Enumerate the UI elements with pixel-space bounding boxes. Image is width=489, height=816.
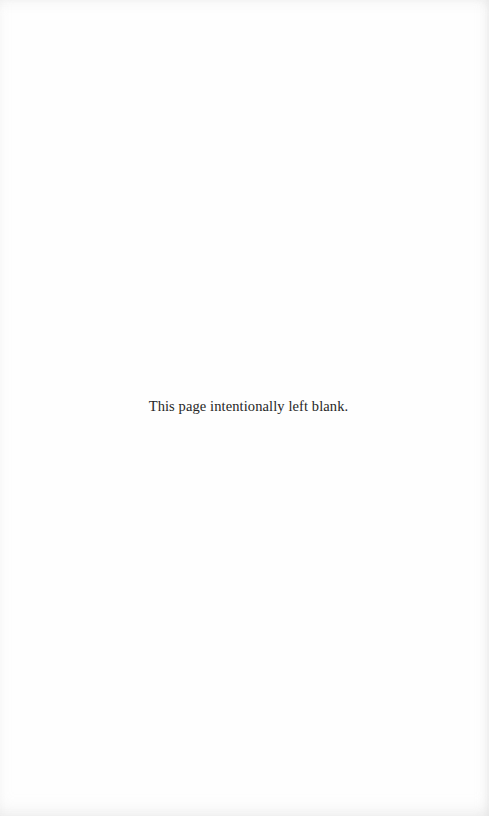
blank-page-notice: This page intentionally left blank.: [0, 398, 489, 415]
document-page: This page intentionally left blank.: [0, 0, 489, 816]
